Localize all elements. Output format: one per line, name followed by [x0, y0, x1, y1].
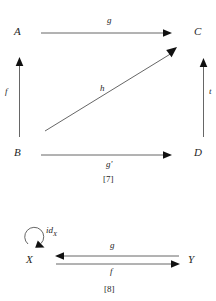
morphism-label-f-lower: f — [110, 267, 113, 276]
identity-subscript: X — [53, 230, 57, 237]
identity-prefix: id — [46, 225, 53, 235]
morphism-label-identity: idX — [46, 226, 57, 237]
arrow-identity-loop — [25, 227, 45, 247]
arrow-upper-g — [55, 252, 179, 260]
arrow-lower-f — [56, 260, 180, 268]
morphism-label-g-upper: g — [110, 241, 115, 250]
diagram-canvas: A C B D g f t h g' [7] — [0, 0, 216, 301]
object-X: X — [26, 254, 33, 265]
object-Y: Y — [188, 254, 194, 265]
caption-diagram-8: [8] — [104, 285, 115, 294]
